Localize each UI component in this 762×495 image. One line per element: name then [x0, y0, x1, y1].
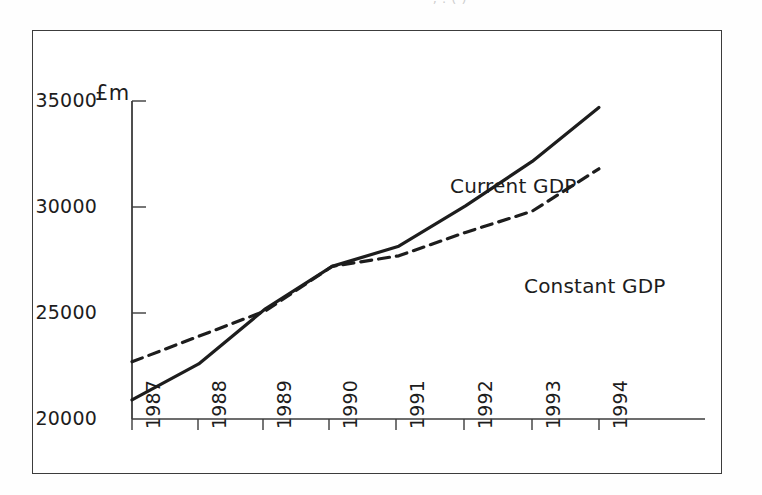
- cropped-caption-fragment: , . ( ): [300, 0, 600, 7]
- chart-figure-frame: £m 35000 30000 25000 20000 1987 1988 198…: [32, 30, 722, 474]
- figure-page: , . ( ) £m 35000 30000 25000 20000 1987 …: [0, 0, 762, 495]
- series-line-current-gdp: [132, 107, 599, 400]
- series-line-constant-gdp: [132, 169, 599, 362]
- plot-area: [33, 31, 721, 473]
- y-axis-ticks: [132, 101, 146, 313]
- x-axis-ticks: [132, 419, 599, 430]
